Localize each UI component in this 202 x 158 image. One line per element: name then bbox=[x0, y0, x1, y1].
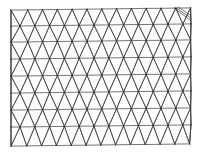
mesh-edge bbox=[87, 41, 94, 58]
mesh-edge bbox=[94, 9, 102, 25]
mesh-edge bbox=[153, 74, 161, 91]
mesh-edge bbox=[50, 10, 58, 26]
mesh-edge bbox=[190, 125, 191, 144]
mesh-edge bbox=[35, 127, 42, 146]
mesh-edge bbox=[20, 76, 28, 93]
mesh-edge bbox=[50, 42, 58, 59]
mesh-edge bbox=[11, 127, 20, 146]
mesh-edge bbox=[50, 26, 58, 42]
mesh-edge bbox=[43, 26, 50, 42]
mesh-edge bbox=[11, 59, 20, 76]
mesh-edge bbox=[102, 41, 109, 58]
mesh-edge bbox=[57, 110, 64, 127]
mesh-edge bbox=[28, 26, 35, 42]
mesh-edge bbox=[183, 125, 190, 144]
mesh-edge bbox=[109, 9, 117, 25]
mesh-edge bbox=[117, 25, 124, 41]
mesh-edge bbox=[35, 93, 43, 110]
mesh-edge bbox=[43, 59, 50, 76]
mesh-edge bbox=[64, 58, 72, 75]
mesh-edge bbox=[116, 126, 124, 145]
mesh-edge bbox=[168, 8, 176, 24]
mesh-edge bbox=[168, 74, 176, 91]
mesh-edge bbox=[138, 92, 146, 109]
mesh-edge bbox=[153, 40, 161, 57]
mesh-edge bbox=[64, 126, 71, 145]
mesh-edge bbox=[64, 109, 72, 126]
mesh-edge bbox=[43, 110, 50, 127]
mesh-edge bbox=[50, 59, 58, 76]
mesh-edge bbox=[87, 109, 94, 126]
mesh-edge bbox=[35, 59, 43, 76]
mesh-edge bbox=[124, 75, 132, 92]
mesh-edge bbox=[43, 10, 50, 26]
mesh-edge bbox=[109, 126, 116, 145]
mesh-edge bbox=[109, 75, 117, 92]
mesh-edge bbox=[35, 76, 43, 93]
mesh-edge bbox=[11, 93, 20, 110]
mesh-edge bbox=[71, 126, 79, 145]
mesh-edge bbox=[168, 57, 176, 74]
mesh-edge bbox=[117, 41, 124, 58]
mesh-edge bbox=[131, 92, 138, 109]
mesh-edge bbox=[183, 8, 191, 24]
mesh-edge bbox=[79, 41, 87, 58]
mesh-edge bbox=[79, 92, 87, 109]
mesh-edge bbox=[161, 24, 168, 40]
mesh-edges bbox=[11, 7, 191, 146]
mesh-edge bbox=[72, 41, 79, 58]
mesh-edge bbox=[131, 75, 138, 92]
mesh-edge bbox=[94, 75, 102, 92]
mesh-edge bbox=[117, 109, 124, 126]
mesh-edge bbox=[94, 41, 102, 58]
mesh-edge bbox=[79, 9, 87, 25]
mesh-edge bbox=[102, 58, 109, 75]
mesh-edge bbox=[64, 92, 72, 109]
triangular-mesh-diagram bbox=[0, 0, 202, 158]
mesh-edge bbox=[130, 126, 138, 145]
mesh-edge bbox=[87, 75, 94, 92]
mesh-edge bbox=[87, 25, 94, 41]
mesh-edge bbox=[87, 58, 94, 75]
mesh-edge bbox=[57, 76, 64, 93]
mesh-edge bbox=[124, 25, 132, 41]
mesh-edge bbox=[35, 10, 43, 26]
mesh-edge bbox=[183, 24, 191, 40]
mesh-edge bbox=[28, 59, 35, 76]
mesh-edge bbox=[79, 109, 87, 126]
mesh-edge bbox=[138, 126, 145, 145]
mesh-edge bbox=[28, 110, 35, 127]
mesh-edge bbox=[64, 41, 72, 58]
mesh-edge bbox=[102, 92, 109, 109]
mesh-edge bbox=[102, 75, 109, 92]
mesh-edge bbox=[35, 110, 43, 127]
mesh-edge bbox=[124, 126, 131, 145]
mesh-edge bbox=[72, 109, 79, 126]
mesh-edge bbox=[161, 91, 168, 108]
mesh-edge bbox=[176, 74, 183, 91]
mesh-edge bbox=[117, 58, 124, 75]
mesh-edge bbox=[43, 42, 50, 59]
mesh-edge bbox=[72, 25, 79, 41]
mesh-edge bbox=[50, 76, 58, 93]
mesh-edge bbox=[168, 24, 176, 40]
mesh-edge bbox=[11, 110, 20, 127]
mesh-edge bbox=[131, 109, 138, 126]
mesh-edge bbox=[43, 93, 50, 110]
mesh-edge bbox=[102, 25, 109, 41]
mesh-edge bbox=[138, 25, 146, 41]
mesh-edge bbox=[131, 9, 138, 25]
mesh-edge bbox=[50, 127, 57, 146]
mesh-edge bbox=[57, 92, 64, 109]
mesh-edge bbox=[35, 42, 43, 59]
mesh-edge bbox=[138, 58, 146, 75]
mesh-edge bbox=[20, 42, 28, 59]
mesh-edge bbox=[153, 8, 161, 24]
mesh-edge bbox=[64, 9, 72, 25]
mesh-edge bbox=[20, 127, 27, 146]
mesh-edge bbox=[183, 74, 191, 91]
mesh-edge bbox=[183, 91, 191, 108]
mesh-edge bbox=[64, 75, 72, 92]
mesh-edge bbox=[168, 40, 176, 57]
mesh-edge bbox=[11, 42, 20, 59]
